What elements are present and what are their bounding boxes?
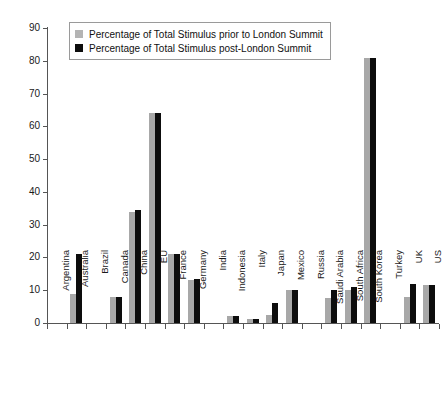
legend-label-post: Percentage of Total Stimulus post-London… — [89, 43, 311, 54]
legend-item-prior: Percentage of Total Stimulus prior to Lo… — [75, 27, 323, 41]
y-axis-tick-label: 70 — [14, 89, 40, 99]
y-axis-tick-label: 90 — [14, 23, 40, 33]
y-axis-tick-label: 50 — [14, 154, 40, 164]
bar-chart: 0102030405060708090 ArgentinaAustraliaBr… — [0, 0, 448, 410]
legend-swatch-post-icon — [75, 44, 83, 52]
x-axis-category-label: Canada — [120, 250, 130, 330]
x-axis-category-label: Indonesia — [237, 250, 247, 330]
x-axis-category-label: Germany — [198, 250, 208, 330]
x-axis-category-label: Argentina — [61, 250, 71, 330]
x-axis-category-label: India — [218, 250, 228, 330]
x-axis-category-label: UK — [414, 250, 424, 330]
x-axis-category-label: Saudi Arabia — [335, 250, 345, 330]
y-axis-tick-label: 0 — [14, 318, 40, 328]
x-axis-category-label: Australia — [80, 250, 90, 330]
x-axis-category-label: Brazil — [100, 250, 110, 330]
x-axis-category-label: Russia — [316, 250, 326, 330]
y-axis-tick-label: 60 — [14, 121, 40, 131]
x-axis-category-label: US — [433, 250, 443, 330]
y-axis-tick-label: 80 — [14, 56, 40, 66]
x-axis-category-label: Italy — [257, 250, 267, 330]
y-axis-tick-label: 30 — [14, 220, 40, 230]
chart-legend: Percentage of Total Stimulus prior to Lo… — [69, 22, 331, 60]
x-axis-tick — [47, 324, 48, 329]
y-axis-tick-label: 40 — [14, 187, 40, 197]
x-axis-category-label: South Korea — [374, 250, 384, 330]
legend-swatch-prior-icon — [75, 30, 83, 38]
x-axis-category-label: France — [178, 250, 188, 330]
x-axis-category-label: Japan — [276, 250, 286, 330]
x-axis-category-label: Turkey — [394, 250, 404, 330]
y-axis-tick-label: 20 — [14, 252, 40, 262]
x-axis-category-label: South Africa — [355, 250, 365, 330]
x-axis-category-label: China — [139, 250, 149, 330]
x-axis-category-label: Mexico — [296, 250, 306, 330]
legend-item-post: Percentage of Total Stimulus post-London… — [75, 41, 323, 55]
legend-label-prior: Percentage of Total Stimulus prior to Lo… — [89, 29, 323, 40]
x-axis-category-label: EU — [159, 250, 169, 330]
y-axis-tick-label: 10 — [14, 285, 40, 295]
